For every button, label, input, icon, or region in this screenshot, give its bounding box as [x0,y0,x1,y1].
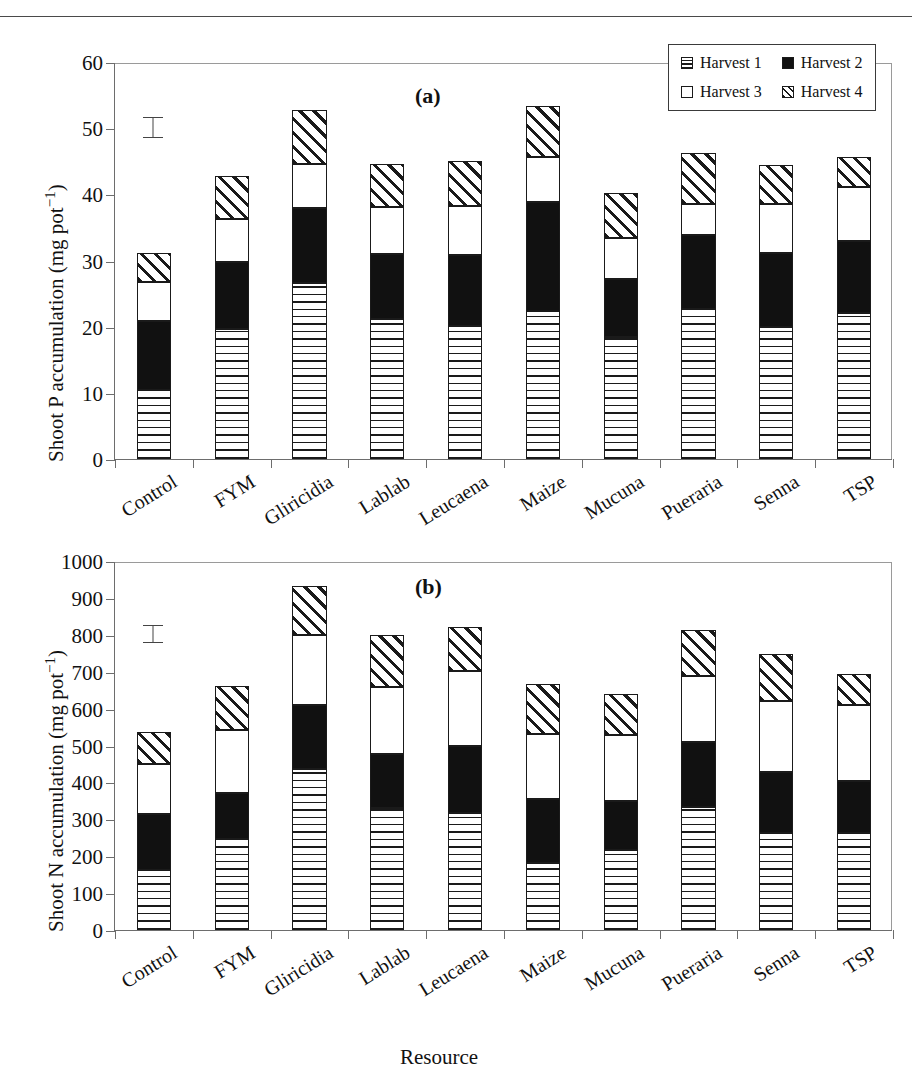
bar-segment-b-leucaena-h1 [448,813,482,930]
bar-segment-a-tsp-h2 [837,241,871,312]
page-header-rule [0,16,912,17]
x-tick-b-10 [893,930,894,939]
plot-right-rule-a [891,63,892,459]
bar-segment-a-fym-h1 [215,329,249,459]
bar-segment-b-maize-h1 [526,863,560,930]
y-tick-label-b-200: 200 [72,845,104,870]
bar-segment-a-senna-h3 [759,204,793,254]
x-tick-a-6 [582,459,583,468]
x-tick-b-8 [737,930,738,939]
legend-item-harvest-2[interactable]: Harvest 2 [782,54,863,72]
plot-top-rule-b [115,562,892,563]
y-tick-label-b-700: 700 [72,660,104,685]
bar-segment-b-pueraria-h2 [681,742,715,807]
lsd-error-bar-a [143,117,163,138]
bar-a-maize [526,106,560,459]
bar-segment-a-mucuna-h2 [604,279,638,337]
bar-segment-a-tsp-h4 [837,157,871,187]
x-tick-a-2 [271,459,272,468]
x-category-label-a-gliricidia: Gliricidia [260,470,337,530]
y-tick-b-700 [106,673,115,674]
bar-segment-a-senna-h4 [759,165,793,203]
legend-label: Harvest 1 [700,54,762,72]
bar-segment-b-mucuna-h3 [604,735,638,801]
y-axis-title-a-text: Shoot P accumulation (mg pot [44,207,68,462]
x-axis-title: Resource [400,1045,478,1070]
bar-segment-a-control-h1 [137,390,171,459]
x-tick-b-3 [348,930,349,939]
bar-a-control [137,253,171,459]
x-category-label-b-mucuna: Mucuna [580,941,648,995]
x-category-label-b-pueraria: Pueraria [657,941,726,996]
bar-segment-a-mucuna-h1 [604,337,638,459]
y-tick-a-30 [106,262,115,263]
y-tick-a-10 [106,394,115,395]
bar-segment-a-fym-h3 [215,219,249,261]
y-tick-a-20 [106,328,115,329]
x-tick-b-7 [660,930,661,939]
bar-segment-b-lablab-h2 [370,754,404,809]
bar-b-lablab [370,635,404,930]
bar-a-fym [215,176,249,459]
bar-segment-b-lablab-h1 [370,808,404,930]
y-tick-label-b-900: 900 [72,586,104,611]
x-category-label-b-lablab: Lablab [355,941,414,990]
x-category-label-a-pueraria: Pueraria [657,470,726,525]
bar-a-senna [759,165,793,459]
lsd-error-bar-b [143,625,163,643]
bar-segment-a-leucaena-h1 [448,326,482,459]
y-tick-label-a-40: 40 [82,183,103,208]
y-tick-b-800 [106,636,115,637]
x-tick-a-0 [115,459,116,468]
bar-segment-a-fym-h2 [215,262,249,329]
legend-item-harvest-1[interactable]: Harvest 1 [681,54,762,72]
lsd-stem-a [153,117,154,138]
y-axis-title-b: Shoot N accumulation (mg pot−1) [42,650,69,932]
bar-segment-b-tsp-h1 [837,833,871,930]
x-category-label-b-fym: FYM [210,941,259,983]
y-tick-label-a-0: 0 [93,448,104,473]
legend-label: Harvest 2 [801,54,863,72]
y-axis-title-b-tail: ) [44,650,68,657]
bar-segment-b-maize-h4 [526,684,560,734]
bar-segment-b-lablab-h4 [370,635,404,687]
x-tick-a-7 [660,459,661,468]
bar-segment-a-maize-h2 [526,202,560,312]
bar-segment-b-maize-h3 [526,734,560,799]
bar-segment-a-pueraria-h4 [681,153,715,204]
legend-item-harvest-3[interactable]: Harvest 3 [681,83,762,101]
y-tick-a-60 [106,63,115,64]
bar-segment-b-control-h3 [137,764,171,813]
bar-segment-b-senna-h4 [759,654,793,701]
legend-label: Harvest 3 [700,83,762,101]
bar-segment-b-leucaena-h3 [448,671,482,746]
bar-segment-b-tsp-h2 [837,781,871,833]
lsd-cap-top-b [143,625,163,626]
legend-swatch-h3-icon [681,86,693,98]
x-tick-a-10 [893,459,894,468]
y-tick-b-1000 [106,562,115,563]
legend-label: Harvest 4 [801,83,863,101]
y-tick-b-600 [106,710,115,711]
bar-a-mucuna [604,193,638,459]
bar-segment-b-gliricidia-h2 [292,705,326,769]
bar-b-maize [526,684,560,930]
bar-segment-a-leucaena-h4 [448,161,482,206]
bar-segment-b-mucuna-h1 [604,850,638,930]
y-tick-label-a-60: 60 [82,51,103,76]
bar-segment-a-mucuna-h3 [604,238,638,279]
lsd-cap-bottom-a [143,137,163,138]
bar-segment-b-mucuna-h4 [604,694,638,735]
bar-segment-b-gliricidia-h4 [292,586,326,635]
bar-a-tsp [837,157,871,459]
x-category-label-a-mucuna: Mucuna [580,470,648,524]
legend-item-harvest-4[interactable]: Harvest 4 [782,83,863,101]
x-tick-b-2 [271,930,272,939]
y-tick-a-0 [106,460,115,461]
bar-segment-b-fym-h4 [215,686,249,730]
x-tick-a-1 [193,459,194,468]
x-category-label-a-control: Control [117,470,181,522]
x-category-label-a-tsp: TSP [840,470,881,508]
bar-segment-b-senna-h1 [759,833,793,930]
x-category-label-a-lablab: Lablab [355,470,414,519]
